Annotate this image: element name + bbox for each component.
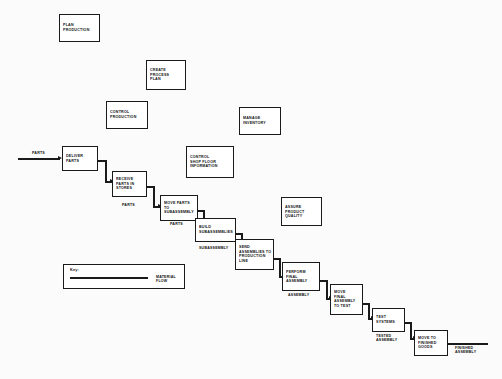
box-send-assemblies-to-production-line-label: SEND ASSEMBLIES TO PRODUCTION LINE <box>239 245 271 264</box>
box-move-parts-to-subassembly-label: MOVE PARTS TO SUBASSEMBLY <box>164 201 194 215</box>
box-create-process-plan[interactable]: CREATE PROCESS PLAN <box>146 60 186 90</box>
legend-title: Key: <box>70 268 79 272</box>
connector-test-to-finished-v <box>410 322 412 339</box>
box-manage-inventory-label: MANAGE INVENTORY <box>243 116 266 125</box>
legend-key: Key: MATERIAL FLOW <box>63 264 185 289</box>
box-build-subassemblies-label: BUILD SUBASSEMBLIES <box>199 225 233 234</box>
box-deliver-parts-label: DELIVER PARTS <box>66 154 83 163</box>
flow-label-parts-received: PARTS <box>122 203 135 207</box>
flow-label-assembly: ASSEMBLY <box>288 293 309 297</box>
box-move-parts-to-subassembly[interactable]: MOVE PARTS TO SUBASSEMBLY <box>160 195 198 221</box>
flow-label-parts-input: PARTS <box>32 151 45 155</box>
connector-receive-to-move-v <box>153 186 155 207</box>
box-plan-production[interactable]: PLAN PRODUCTION <box>59 14 100 42</box>
connector-deliver-to-receive-v <box>105 160 107 182</box>
connector-send-to-perform-v <box>279 258 281 277</box>
box-receive-parts-in-stores[interactable]: RECEIVE PARTS IN STORES <box>112 171 147 197</box>
connector-parts-input <box>18 158 60 160</box>
box-control-production[interactable]: CONTROL PRODUCTION <box>106 101 148 129</box>
box-manage-inventory[interactable]: MANAGE INVENTORY <box>239 107 281 135</box>
box-control-shop-floor-information[interactable]: CONTROL SHOP FLOOR INFORMATION <box>186 146 234 178</box>
box-control-production-label: CONTROL PRODUCTION <box>110 110 136 119</box>
connector-finished-assembly-output <box>448 343 488 345</box>
box-create-process-plan-label: CREATE PROCESS PLAN <box>150 68 169 82</box>
box-test-systems-label: TEST SYSTEMS <box>376 315 395 324</box>
box-deliver-parts[interactable]: DELIVER PARTS <box>62 146 98 171</box>
connector-movetest-to-test-v <box>368 303 370 319</box>
flow-label-tested-assembly: TESTED ASSEMBLY <box>376 334 397 343</box>
box-perform-final-assembly[interactable]: PERFORM FINAL ASSEMBLY <box>282 262 320 291</box>
flow-label-parts-moved: PARTS <box>170 222 183 226</box>
process-flow-diagram: PLAN PRODUCTION CREATE PROCESS PLAN CONT… <box>0 0 502 379</box>
box-move-final-assembly-to-test[interactable]: MOVE FINAL ASSEMBLY TO TEST <box>330 284 363 315</box>
box-control-shop-floor-information-label: CONTROL SHOP FLOOR INFORMATION <box>190 155 218 169</box>
box-test-systems[interactable]: TEST SYSTEMS <box>372 308 405 332</box>
box-assure-product-quality-label: ASSURE PRODUCT QUALITY <box>285 204 304 218</box>
box-move-to-finished-goods[interactable]: MOVE TO FINISHED GOODS <box>414 330 448 356</box>
box-assure-product-quality[interactable]: ASSURE PRODUCT QUALITY <box>281 197 322 226</box>
flow-label-finished-assembly: FINISHED ASSEMBLY <box>455 346 476 355</box>
flow-label-subassembly: SUBASSEMBLY <box>199 246 228 250</box>
box-move-to-finished-goods-label: MOVE TO FINISHED GOODS <box>418 336 437 350</box>
box-build-subassemblies[interactable]: BUILD SUBASSEMBLIES <box>195 218 236 242</box>
legend-material-flow-rule <box>70 277 148 279</box>
box-send-assemblies-to-production-line[interactable]: SEND ASSEMBLIES TO PRODUCTION LINE <box>235 239 274 270</box>
connector-perform-to-movetest-v <box>326 280 328 299</box>
box-receive-parts-in-stores-label: RECEIVE PARTS IN STORES <box>116 177 134 191</box>
legend-material-flow-label: MATERIAL FLOW <box>156 275 184 283</box>
box-move-final-assembly-to-test-label: MOVE FINAL ASSEMBLY TO TEST <box>334 290 355 309</box>
box-plan-production-label: PLAN PRODUCTION <box>63 23 89 32</box>
box-perform-final-assembly-label: PERFORM FINAL ASSEMBLY <box>286 269 307 283</box>
